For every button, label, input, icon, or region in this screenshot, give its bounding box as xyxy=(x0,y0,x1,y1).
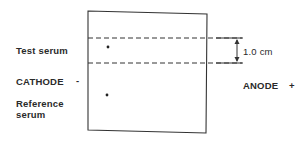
gel-plate xyxy=(88,11,207,133)
reference-serum-dot xyxy=(106,94,109,97)
anode-label: ANODE xyxy=(243,80,278,91)
anode-sign: + xyxy=(289,80,295,91)
reference-serum-label-line2: serum xyxy=(16,109,46,120)
arrow-down-icon xyxy=(235,57,240,62)
cathode-label: CATHODE xyxy=(16,76,64,87)
reference-serum-label-line1: Reference xyxy=(16,98,64,109)
test-serum-label: Test serum xyxy=(16,45,68,56)
test-serum-dot xyxy=(107,46,110,49)
arrow-up-icon xyxy=(235,39,240,44)
diagram-canvas xyxy=(0,0,307,141)
distance-label: 1.0 cm xyxy=(243,46,273,57)
cathode-sign: - xyxy=(76,75,79,86)
